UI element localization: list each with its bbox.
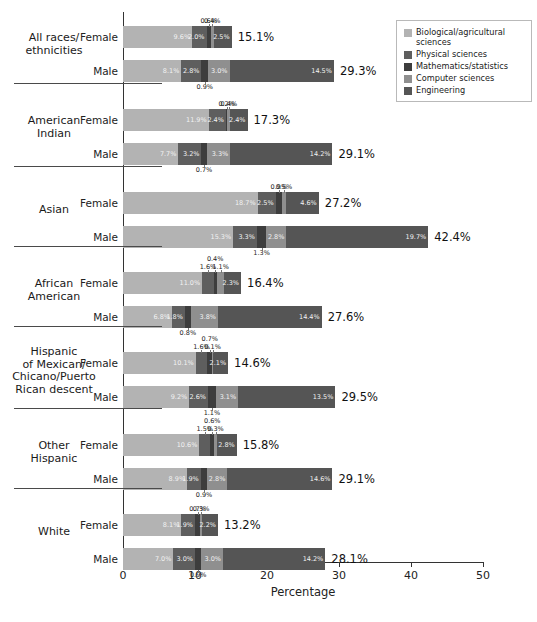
bar-segment[interactable]: 3.0% — [173, 548, 195, 570]
segment-value-label: 15.3% — [211, 233, 232, 241]
legend-item-label: Computer sciences — [416, 73, 494, 83]
bar-segment[interactable]: 6.8% — [123, 306, 172, 328]
callout-leader-line — [212, 408, 213, 411]
bar-segment[interactable]: 3.1% — [216, 386, 238, 408]
group-separator — [14, 488, 162, 489]
bar-segment[interactable]: 3.3% — [207, 143, 231, 165]
bar-segment[interactable]: 8.9% — [123, 468, 187, 490]
bar-segment[interactable]: 8.1% — [123, 60, 181, 82]
bar-segment[interactable]: 9.6% — [123, 26, 192, 48]
bar-segment[interactable]: 10.1% — [123, 352, 196, 374]
bar-segment[interactable]: 4.6% — [286, 192, 319, 214]
bar-segment[interactable] — [196, 352, 208, 374]
bar-segment[interactable]: 9.2% — [123, 386, 189, 408]
stacked-bar[interactable]: 10.6%2.8% — [123, 434, 237, 456]
bar-segment[interactable]: 2.4% — [230, 109, 247, 131]
stacked-bar[interactable]: 18.7%2.5%4.6% — [123, 192, 319, 214]
stacked-bar[interactable]: 6.8%1.8%3.8%14.4% — [123, 306, 322, 328]
stacked-bar[interactable]: 8.1%1.9%2.2% — [123, 514, 218, 536]
bar-segment[interactable] — [202, 272, 214, 294]
row-label-female: Female — [60, 272, 118, 294]
segment-value-label: 2.6% — [189, 393, 206, 401]
bar-segment[interactable]: 13.5% — [238, 386, 335, 408]
segment-value-label: 3.8% — [200, 313, 217, 321]
chart-row: Male6.8%1.8%3.8%14.4%0.8%27.6% — [0, 306, 537, 328]
stacked-bar[interactable]: 10.1%2.1% — [123, 352, 228, 374]
legend-item[interactable]: Mathematics/statistics — [404, 61, 525, 71]
bar-segment[interactable]: 15.3% — [123, 226, 233, 248]
bar-segment[interactable]: 7.0% — [123, 548, 173, 570]
bar-segment[interactable]: 11.0% — [123, 272, 202, 294]
bar-segment[interactable]: 1.8% — [172, 306, 185, 328]
bar-segment[interactable] — [257, 226, 266, 248]
bar-segment[interactable]: 2.5% — [258, 192, 276, 214]
stacked-bar[interactable]: 8.9%1.9%2.8%14.6% — [123, 468, 332, 490]
stacked-bar[interactable]: 9.6%2.0%2.5% — [123, 26, 232, 48]
bar-segment[interactable]: 2.6% — [189, 386, 208, 408]
row-total-label: 27.6% — [328, 310, 365, 324]
bar-segment[interactable]: 3.2% — [178, 143, 201, 165]
bar-segment[interactable]: 3.3% — [233, 226, 257, 248]
bar-segment[interactable] — [208, 386, 216, 408]
stacked-bar[interactable]: 9.2%2.6%3.1%13.5% — [123, 386, 335, 408]
bar-segment[interactable]: 8.1% — [123, 514, 181, 536]
bar-segment[interactable]: 14.6% — [227, 468, 332, 490]
callout-leader-line — [204, 165, 205, 168]
bar-segment[interactable]: 2.8% — [266, 226, 286, 248]
bar-segment[interactable]: 3.8% — [191, 306, 218, 328]
segment-value-label: 2.1% — [210, 359, 227, 367]
bar-segment[interactable]: 3.0% — [208, 60, 230, 82]
row-label-male: Male — [60, 468, 118, 490]
bar-segment[interactable]: 14.2% — [223, 548, 325, 570]
bar-segment[interactable]: 2.3% — [224, 272, 241, 294]
row-total-label: 29.3% — [340, 64, 377, 78]
bar-segment[interactable]: 2.8% — [217, 434, 237, 456]
row-total-label: 29.1% — [339, 472, 376, 486]
bar-segment[interactable]: 10.6% — [123, 434, 199, 456]
bar-segment[interactable]: 3.0% — [201, 548, 223, 570]
stacked-bar[interactable]: 11.0%2.3% — [123, 272, 241, 294]
bar-segment[interactable]: 18.7% — [123, 192, 258, 214]
bar-segment[interactable]: 1.9% — [181, 514, 195, 536]
legend-item[interactable]: Engineering — [404, 85, 525, 95]
legend-swatch-icon — [404, 29, 412, 37]
legend-item[interactable]: Physical sciences — [404, 49, 525, 59]
segment-value-label: 2.8% — [268, 233, 285, 241]
stacked-bar[interactable]: 8.1%2.8%3.0%14.5% — [123, 60, 334, 82]
segment-value-label: 14.4% — [299, 313, 320, 321]
row-label-male: Male — [60, 60, 118, 82]
row-total-label: 15.8% — [243, 438, 280, 452]
bar-segment[interactable]: 2.4% — [209, 109, 226, 131]
bar-segment[interactable]: 2.8% — [181, 60, 201, 82]
bar-segment[interactable]: 2.0% — [192, 26, 206, 48]
bar-segment[interactable]: 2.2% — [202, 514, 218, 536]
segment-value-label: 11.0% — [180, 279, 201, 287]
legend-item[interactable]: Biological/agricultural sciences — [404, 27, 525, 47]
bar-segment[interactable]: 1.9% — [187, 468, 201, 490]
legend-item[interactable]: Computer sciences — [404, 73, 525, 83]
bar-segment[interactable]: 11.9% — [123, 109, 209, 131]
bar-segment[interactable]: 7.7% — [123, 143, 178, 165]
segment-value-label: 2.0% — [188, 33, 205, 41]
bar-segment[interactable]: 19.7% — [286, 226, 428, 248]
row-label-male: Male — [60, 386, 118, 408]
row-total-label: 13.2% — [224, 518, 261, 532]
bar-segment[interactable]: 14.5% — [230, 60, 334, 82]
legend-item-label: Mathematics/statistics — [416, 61, 508, 71]
callout-leader-line — [205, 82, 206, 85]
bar-segment[interactable]: 14.4% — [218, 306, 322, 328]
bar-segment[interactable] — [199, 434, 210, 456]
stacked-bar[interactable]: 7.7%3.2%3.3%14.2% — [123, 143, 332, 165]
bar-segment[interactable]: 2.8% — [207, 468, 227, 490]
bar-segment[interactable]: 2.5% — [214, 26, 232, 48]
stacked-bar[interactable]: 7.0%3.0%3.0%14.2% — [123, 548, 325, 570]
segment-value-label: 2.8% — [183, 67, 200, 75]
stacked-bar-chart: 01020304050 Percentage All races/ethnici… — [0, 0, 537, 622]
bar-segment[interactable]: 2.1% — [213, 352, 228, 374]
stacked-bar[interactable]: 15.3%3.3%2.8%19.7% — [123, 226, 428, 248]
bar-segment[interactable]: 14.2% — [230, 143, 332, 165]
legend-item-label: Biological/agricultural sciences — [416, 27, 525, 47]
chart-row: Female8.1%1.9%2.2%0.7%0.3%13.2% — [0, 514, 537, 536]
segment-value-label: 3.0% — [211, 67, 228, 75]
stacked-bar[interactable]: 11.9%2.4%2.4% — [123, 109, 248, 131]
